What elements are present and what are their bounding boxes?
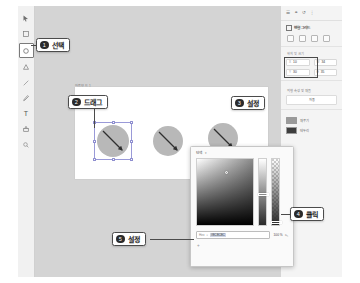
callout-4-number: 4 xyxy=(294,210,303,219)
appearance-label: 외형 속성 및 채움 xyxy=(287,88,337,93)
picker-body xyxy=(191,158,293,226)
callout-5: 5 설정 xyxy=(112,232,146,246)
callout-5-number: 5 xyxy=(116,235,125,244)
saturation-value-area[interactable] xyxy=(196,158,254,226)
field-y-key: Y xyxy=(289,70,291,74)
leader-line-2 xyxy=(94,109,95,128)
grid-icon xyxy=(286,25,292,31)
appearance-value[interactable]: 자동 xyxy=(286,95,337,105)
position-section: 위치 및 크기 X 10 W 34 Y 30 H 35 xyxy=(281,47,342,81)
line-tool[interactable] xyxy=(20,76,33,89)
resize-handle-n[interactable] xyxy=(112,121,115,124)
callout-3: 3 설정 xyxy=(231,96,265,110)
triangle-tool[interactable] xyxy=(20,61,33,74)
hue-slider[interactable] xyxy=(258,158,267,226)
picker-header[interactable]: 단색 ▾ xyxy=(191,147,293,158)
field-y-value: 30 xyxy=(293,70,297,74)
layers-icon[interactable]: ☰ xyxy=(286,11,290,16)
stroke-row[interactable]: 테두리 xyxy=(286,127,337,134)
pointer-tool[interactable] xyxy=(20,12,33,25)
field-x-key: X xyxy=(289,60,291,64)
resize-handle-w[interactable] xyxy=(93,140,96,143)
callout-2-text: 드래그 xyxy=(84,97,102,107)
field-w-value: 34 xyxy=(321,60,325,64)
history-icon[interactable]: ↺ xyxy=(302,11,306,16)
fill-row[interactable]: 채우기 xyxy=(286,117,337,124)
ellipse-shape-2[interactable] xyxy=(153,126,183,156)
callout-1: 1 선택 xyxy=(36,38,70,52)
align-distribute-icon[interactable] xyxy=(323,35,330,42)
hex-row: Hex ▾ #8C8C8C 100 % ✎ xyxy=(196,231,288,239)
callout-3-number: 3 xyxy=(235,99,244,108)
leader-line-5 xyxy=(150,239,194,240)
resize-handle-e[interactable] xyxy=(130,140,133,143)
stamp-tool[interactable] xyxy=(20,123,33,136)
chevron-down-icon[interactable]: ▾ xyxy=(205,151,207,155)
callout-2: 2 드래그 xyxy=(68,95,108,109)
field-x-value: 10 xyxy=(293,60,297,64)
resize-handle-ne[interactable] xyxy=(130,121,133,124)
transform-section: 변형 그리드 xyxy=(281,21,342,47)
appearance-section: 외형 속성 및 채움 자동 xyxy=(281,81,342,110)
selection-box[interactable] xyxy=(94,122,132,160)
hex-value: #8C8C8C xyxy=(210,233,226,237)
resize-handle-sw[interactable] xyxy=(93,158,96,161)
resize-handle-s[interactable] xyxy=(112,158,115,161)
alpha-thumb[interactable] xyxy=(271,221,282,224)
field-w[interactable]: W 34 xyxy=(314,59,338,66)
link-icon[interactable]: ⚭ xyxy=(294,11,298,16)
transform-section-title: 변형 그리드 xyxy=(286,25,337,31)
hex-input[interactable]: Hex ▾ #8C8C8C xyxy=(196,231,270,239)
fill-swatch[interactable] xyxy=(286,117,297,124)
opacity-value[interactable]: 100 % xyxy=(272,233,283,237)
text-tool[interactable]: T xyxy=(20,107,33,120)
color-section: 채우기 테두리 xyxy=(281,110,342,138)
rectangle-tool[interactable] xyxy=(20,28,33,41)
callout-1-text: 선택 xyxy=(52,40,64,50)
stroke-swatch[interactable] xyxy=(286,127,297,134)
hue-thumb[interactable] xyxy=(258,193,269,196)
callout-1-number: 1 xyxy=(40,41,49,50)
field-y[interactable]: Y 30 xyxy=(286,69,310,76)
callout-4-text: 클릭 xyxy=(306,209,318,219)
callout-4: 4 클릭 xyxy=(290,207,324,221)
field-h-value: 35 xyxy=(321,70,325,74)
stroke-label: 테두리 xyxy=(300,128,309,133)
position-label: 위치 및 크기 xyxy=(287,51,337,56)
hex-label: Hex xyxy=(199,233,205,237)
callout-3-text: 설정 xyxy=(247,98,259,108)
align-right-icon[interactable] xyxy=(311,35,318,42)
callout-2-number: 2 xyxy=(72,98,81,107)
align-left-icon[interactable] xyxy=(287,35,294,42)
alpha-slider[interactable] xyxy=(271,158,280,226)
field-h[interactable]: H 35 xyxy=(314,69,338,76)
transform-title-text: 변형 그리드 xyxy=(294,25,310,30)
add-color-button[interactable]: + xyxy=(197,243,293,248)
position-fields: X 10 W 34 Y 30 H 35 xyxy=(286,59,337,76)
eyedropper-icon[interactable]: ✎ xyxy=(284,232,289,238)
callout-5-text: 설정 xyxy=(128,234,140,244)
align-buttons xyxy=(286,35,337,42)
hex-chevron-icon[interactable]: ▾ xyxy=(207,234,208,237)
field-x[interactable]: X 10 xyxy=(286,59,310,66)
more-icon[interactable]: ⋮ xyxy=(310,11,315,16)
panel-toolbar: ☰ ⚭ ↺ ⋮ xyxy=(281,6,342,21)
left-toolbar: T xyxy=(18,6,35,277)
picker-mode-label: 단색 xyxy=(196,150,202,155)
zoom-tool[interactable] xyxy=(20,138,33,151)
align-center-icon[interactable] xyxy=(299,35,306,42)
resize-handle-se[interactable] xyxy=(130,158,133,161)
color-picker-popup[interactable]: 단색 ▾ Hex ▾ #8C8C8C 100 % ✎ + xyxy=(190,146,294,267)
pen-tool[interactable] xyxy=(20,92,33,105)
field-h-key: H xyxy=(317,70,319,74)
fill-label: 채우기 xyxy=(300,118,309,123)
sv-cursor[interactable] xyxy=(225,171,228,174)
field-w-key: W xyxy=(317,60,320,64)
